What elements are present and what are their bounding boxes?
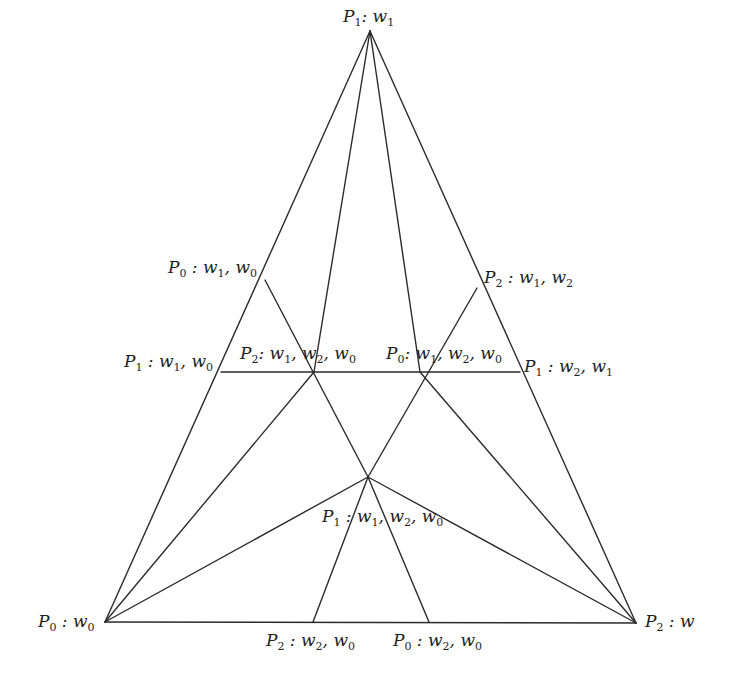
label-bottom-mid-right: P0 : w2, w0 — [392, 630, 482, 653]
edge-line — [105, 31, 370, 622]
label-left-mid: P1 : w1, w0 — [123, 351, 213, 374]
edge-line — [105, 622, 636, 623]
edge-line — [368, 477, 429, 622]
label-center: P1 : w1, w2, w0 — [321, 506, 443, 529]
edge-line — [370, 31, 420, 372]
edge-line — [105, 372, 314, 622]
edge-line — [313, 477, 368, 622]
edge-line — [368, 477, 636, 623]
edge-line — [420, 372, 636, 623]
label-bottom-left: P0 : w0 — [37, 611, 95, 634]
simplex-subdivision-diagram: P1: w1 P0 : w1, w0 P2 : w1, w2 P1 : w1, … — [0, 0, 729, 688]
edge-line — [105, 477, 368, 622]
edge-line — [370, 31, 636, 623]
label-top: P1: w1 — [342, 6, 394, 29]
label-inner-right: P0: w1, w2, w0 — [385, 343, 502, 366]
label-inner-left: P2: w1, w2, w0 — [239, 343, 356, 366]
label-right-upper: P2 : w1, w2 — [483, 267, 573, 290]
label-right-mid: P1 : w2, w1 — [523, 356, 613, 379]
label-bottom-mid-left: P2 : w2, w0 — [265, 630, 355, 653]
label-left-upper: P0 : w1, w0 — [167, 257, 257, 280]
edge-line — [265, 280, 368, 477]
edge-line — [368, 288, 477, 477]
edges — [105, 31, 636, 623]
label-bottom-right: P2 : w — [644, 611, 695, 634]
edge-line — [314, 31, 370, 372]
